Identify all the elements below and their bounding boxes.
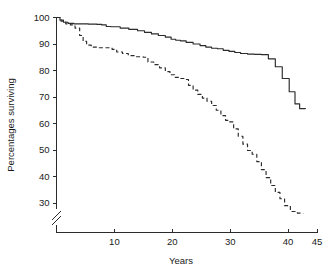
x-axis-title: Years bbox=[169, 255, 193, 266]
survival-chart-figure: 30405060708090100 1020304045 Years Perce… bbox=[0, 0, 326, 270]
y-axis-tick-marks bbox=[53, 18, 57, 204]
y-tick-label: 100 bbox=[34, 12, 50, 23]
survival-curve-solid bbox=[57, 18, 306, 109]
x-tick-label: 30 bbox=[225, 236, 236, 247]
y-tick-label: 60 bbox=[39, 118, 50, 129]
x-tick-label: 45 bbox=[312, 236, 323, 247]
y-tick-label: 70 bbox=[39, 91, 50, 102]
x-axis-tick-labels: 1020304045 bbox=[109, 236, 322, 247]
x-tick-label: 40 bbox=[283, 236, 294, 247]
survival-curve-dashed bbox=[57, 18, 304, 214]
y-tick-label: 40 bbox=[39, 171, 50, 182]
y-tick-label: 30 bbox=[39, 197, 50, 208]
x-tick-label: 10 bbox=[109, 236, 120, 247]
y-axis-break-icon bbox=[52, 211, 61, 225]
y-axis-tick-labels: 30405060708090100 bbox=[34, 12, 50, 209]
y-tick-label: 80 bbox=[39, 65, 50, 76]
x-tick-label: 20 bbox=[167, 236, 178, 247]
y-tick-label: 90 bbox=[39, 38, 50, 49]
y-tick-label: 50 bbox=[39, 144, 50, 155]
x-axis-tick-marks bbox=[114, 229, 317, 233]
y-axis-title: Percentages surviving bbox=[5, 78, 16, 171]
survival-chart-svg: 30405060708090100 1020304045 Years Perce… bbox=[0, 0, 326, 270]
